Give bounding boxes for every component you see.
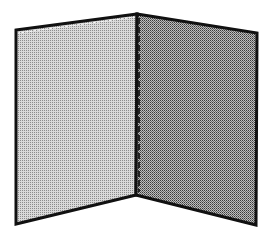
left-panel — [16, 14, 137, 224]
right-panel — [136, 14, 257, 225]
folder-illustration — [0, 0, 275, 237]
